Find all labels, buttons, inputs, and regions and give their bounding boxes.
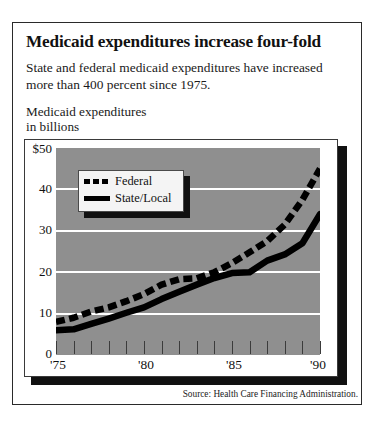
x-tick-1983 bbox=[197, 341, 198, 354]
x-tick-1985 bbox=[232, 341, 233, 354]
x-tick-1977 bbox=[91, 341, 92, 354]
chart-shadow-bottom bbox=[31, 377, 347, 385]
ytick-label-20: 20 bbox=[6, 264, 52, 280]
figure-deck-text: State and federal medicaid expenditures … bbox=[26, 60, 341, 93]
source-note: Source: Health Care Financing Administra… bbox=[183, 389, 358, 399]
x-tick-1979 bbox=[126, 341, 127, 354]
xtick-label-80: '80 bbox=[138, 357, 154, 373]
chart-shadow-right bbox=[338, 146, 347, 384]
x-tick-1986 bbox=[250, 341, 251, 354]
x-tick-1975 bbox=[56, 341, 57, 354]
ytick-label-0: 0 bbox=[6, 346, 52, 362]
legend-swatch-solid-icon bbox=[84, 196, 110, 201]
x-tick-1976 bbox=[74, 341, 75, 354]
legend-label-state-local: State/Local bbox=[115, 191, 171, 206]
xtick-label-90: '90 bbox=[310, 357, 326, 373]
x-tick-1978 bbox=[109, 341, 110, 354]
ytick-label-40: 40 bbox=[6, 181, 52, 197]
ytick-label-30: 30 bbox=[6, 222, 52, 238]
page-title: Medicaid expenditures increase four-fold bbox=[26, 32, 356, 52]
legend-label-federal: Federal bbox=[115, 174, 152, 189]
ytick-label-50: $50 bbox=[6, 141, 52, 157]
x-tick-1980 bbox=[144, 341, 145, 354]
x-tick-1990 bbox=[320, 341, 321, 354]
xtick-label-85: '85 bbox=[226, 357, 242, 373]
legend-item-federal: Federal bbox=[84, 174, 152, 189]
chart-legend: Federal State/Local bbox=[78, 170, 184, 212]
x-tick-1989 bbox=[302, 341, 303, 354]
ytick-label-10: 10 bbox=[6, 305, 52, 321]
figure-page: Medicaid expenditures increase four-fold… bbox=[0, 0, 382, 429]
x-axis-ticks bbox=[56, 341, 320, 355]
x-tick-1982 bbox=[179, 341, 180, 354]
xtick-label-75: '75 bbox=[50, 357, 66, 373]
legend-item-state-local: State/Local bbox=[84, 191, 171, 206]
legend-swatch-dashed-icon bbox=[84, 179, 110, 184]
x-tick-1987 bbox=[267, 341, 268, 354]
x-tick-1988 bbox=[285, 341, 286, 354]
y-axis-caption: Medicaid expenditures in billions bbox=[26, 104, 246, 135]
x-tick-1981 bbox=[162, 341, 163, 354]
x-tick-1984 bbox=[214, 341, 215, 354]
